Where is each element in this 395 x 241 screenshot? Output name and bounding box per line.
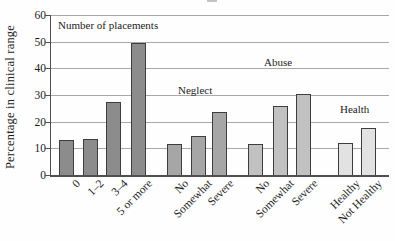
bar-healthy xyxy=(338,143,353,175)
gridline-40 xyxy=(51,68,389,69)
bar-1-2 xyxy=(83,139,98,175)
x-tick-label: 1–2 xyxy=(85,177,106,198)
x-tick-label: No xyxy=(253,177,271,195)
bar-somewhat xyxy=(191,136,206,175)
gridline-60 xyxy=(51,15,389,16)
group-label-health: Health xyxy=(340,103,369,115)
x-tick-label: 0 xyxy=(70,177,83,190)
bar-no xyxy=(167,144,182,175)
group-label-abuse: Abuse xyxy=(264,56,292,68)
y-tickmark-50 xyxy=(45,42,51,43)
gridline-30 xyxy=(51,95,389,96)
y-tick-label-60: 60 xyxy=(14,8,46,22)
gridline-50 xyxy=(51,42,389,43)
y-tickmark-10 xyxy=(45,148,51,149)
y-tickmark-40 xyxy=(45,68,51,69)
group-label-neglect: Neglect xyxy=(178,84,212,96)
bar-no xyxy=(248,144,263,175)
cropped-text-artifact xyxy=(207,0,217,2)
group-label-number-of-placements: Number of placements xyxy=(58,19,158,31)
y-tickmark-30 xyxy=(45,95,51,96)
y-tick-label-10: 10 xyxy=(14,141,46,155)
bar-severe xyxy=(296,94,311,175)
bar-3-4 xyxy=(106,102,121,175)
x-tick-label: No xyxy=(172,177,190,195)
bar-not-healthy xyxy=(361,128,376,175)
y-tick-label-30: 30 xyxy=(14,88,46,102)
bar-0 xyxy=(59,140,74,175)
bar-somewhat xyxy=(273,106,288,175)
bar-5-or-more xyxy=(131,43,146,175)
y-tick-label-0: 0 xyxy=(14,168,46,182)
y-tickmark-60 xyxy=(45,15,51,16)
bar-chart: Percentage in clinical range 01020304050… xyxy=(0,0,395,241)
y-tick-label-20: 20 xyxy=(14,115,46,129)
bar-severe xyxy=(212,112,227,175)
y-tick-label-50: 50 xyxy=(14,35,46,49)
y-tickmark-0 xyxy=(45,175,51,176)
y-tick-label-40: 40 xyxy=(14,61,46,75)
y-tickmark-20 xyxy=(45,122,51,123)
plot-area xyxy=(50,15,389,177)
